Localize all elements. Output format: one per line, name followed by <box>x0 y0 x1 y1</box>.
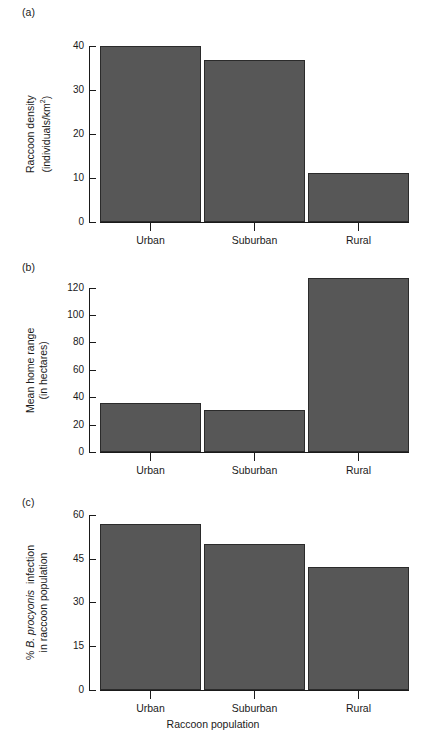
panel-a-ytick-label-20: 20 <box>52 128 84 139</box>
panel-c-ytick-60 <box>89 515 96 516</box>
panel-a-xtick-urban <box>150 223 151 231</box>
panel-c-bar-suburban[interactable] <box>204 544 305 690</box>
panel-b-ytick-label-80: 80 <box>48 336 84 347</box>
panel-a-xtick-label-rural: Rural <box>308 234 409 246</box>
panel-c-ytick-45 <box>89 559 96 560</box>
panel-a-xtick-rural <box>358 223 359 231</box>
panel-c-bar-urban[interactable] <box>100 524 201 690</box>
figure-raccoon-urbanization: (a) Raccoon density (individuals/km2) 40… <box>0 0 426 755</box>
panel-a-y-axis-title-line2: (individuals/km2) <box>37 95 52 173</box>
panel-c-xtick-suburban <box>254 691 255 699</box>
panel-a: (a) Raccoon density (individuals/km2) 40… <box>0 0 426 255</box>
panel-b-xtick-label-suburban: Suburban <box>204 464 305 476</box>
panel-c-xtick-label-rural: Rural <box>308 702 409 714</box>
panel-c-y-axis-title-line2: in raccoon population <box>37 545 50 660</box>
panel-a-xtick-suburban <box>254 223 255 231</box>
panel-b-ytick-label-100: 100 <box>48 309 84 320</box>
figure-x-axis-title: Raccoon population <box>0 718 426 730</box>
panel-b-y-axis-title-line1: Mean home range <box>24 327 36 412</box>
panel-a-tag: (a) <box>22 6 35 18</box>
panel-c-ytick-label-60: 60 <box>52 509 84 520</box>
panel-c-ytick-0 <box>89 690 96 691</box>
panel-a-ytick-label-10: 10 <box>52 172 84 183</box>
panel-c-y-axis-title-line1: % B. procyonis infection <box>24 545 36 660</box>
panel-c-ytick-label-45: 45 <box>52 553 84 564</box>
panel-a-ytick-label-0: 0 <box>52 216 84 227</box>
panel-a-plot-area <box>100 46 409 222</box>
panel-b-xtick-suburban <box>254 453 255 461</box>
panel-b-tag: (b) <box>22 261 35 273</box>
panel-a-ytick-10 <box>89 178 96 179</box>
panel-b-ytick-40 <box>89 397 96 398</box>
panel-a-bar-suburban[interactable] <box>204 60 305 222</box>
panel-c-ytick-label-30: 30 <box>52 596 84 607</box>
panel-c-y-axis-title: % B. procyonis infection in raccoon popu… <box>24 545 49 660</box>
panel-b-xtick-urban <box>150 453 151 461</box>
panel-c-ytick-15 <box>89 646 96 647</box>
panel-b-ytick-0 <box>89 452 96 453</box>
panel-a-y-axis-title: Raccoon density (individuals/km2) <box>24 95 52 173</box>
panel-c-xtick-rural <box>358 691 359 699</box>
panel-c-plot-area <box>100 515 409 690</box>
panel-a-ytick-label-40: 40 <box>52 40 84 51</box>
panel-b-bar-rural[interactable] <box>308 278 409 452</box>
panel-b-xtick-label-urban: Urban <box>100 464 201 476</box>
panel-b-ytick-120 <box>89 288 96 289</box>
panel-b-ytick-80 <box>89 342 96 343</box>
panel-a-y-axis-title-line1: Raccoon density <box>24 95 36 173</box>
panel-a-ytick-label-30: 30 <box>52 84 84 95</box>
panel-a-bar-rural[interactable] <box>308 173 409 222</box>
panel-b-ytick-label-20: 20 <box>48 419 84 430</box>
panel-b-xtick-rural <box>358 453 359 461</box>
panel-b-y-axis-title: Mean home range (in hectares) <box>24 327 49 412</box>
panel-a-ytick-0 <box>89 222 96 223</box>
panel-b-xtick-label-rural: Rural <box>308 464 409 476</box>
panel-b-ytick-20 <box>89 425 96 426</box>
panel-b-bar-suburban[interactable] <box>204 410 305 452</box>
panel-b-bar-urban[interactable] <box>100 403 201 452</box>
panel-c-bar-rural[interactable] <box>308 567 409 690</box>
panel-a-ytick-20 <box>89 134 96 135</box>
panel-a-xtick-label-urban: Urban <box>100 234 201 246</box>
panel-b-plot-area <box>100 278 409 452</box>
panel-c-ytick-30 <box>89 602 96 603</box>
panel-c-xtick-urban <box>150 691 151 699</box>
panel-a-ytick-30 <box>89 90 96 91</box>
panel-b-ytick-label-0: 0 <box>48 446 84 457</box>
panel-c-ytick-label-0: 0 <box>52 684 84 695</box>
panel-c-xtick-label-urban: Urban <box>100 702 201 714</box>
panel-b-ytick-60 <box>89 370 96 371</box>
panel-b-ytick-100 <box>89 315 96 316</box>
panel-c-tag: (c) <box>22 496 35 508</box>
panel-c-ytick-label-15: 15 <box>52 640 84 651</box>
panel-c-xtick-label-suburban: Suburban <box>204 702 305 714</box>
panel-b-ytick-label-120: 120 <box>48 282 84 293</box>
panel-a-bar-urban[interactable] <box>100 46 201 222</box>
panel-b-ytick-label-60: 60 <box>48 364 84 375</box>
panel-b-ytick-label-40: 40 <box>48 391 84 402</box>
panel-a-xtick-label-suburban: Suburban <box>204 234 305 246</box>
panel-a-ytick-40 <box>89 46 96 47</box>
